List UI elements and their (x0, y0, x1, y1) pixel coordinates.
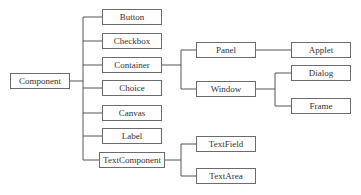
node-applet: Applet (291, 42, 351, 58)
node-choice: Choice (102, 80, 162, 96)
node-textarea: TextArea (196, 168, 256, 184)
node-label: Label (102, 128, 162, 144)
node-container: Container (102, 57, 162, 73)
class-hierarchy-diagram: Component Button Checkbox Container Choi… (0, 0, 361, 195)
node-panel: Panel (196, 42, 256, 58)
node-textcomponent: TextComponent (99, 152, 165, 168)
node-component: Component (10, 73, 70, 89)
node-window: Window (196, 81, 256, 97)
node-checkbox: Checkbox (102, 33, 162, 49)
node-canvas: Canvas (102, 105, 162, 121)
node-textfield: TextField (196, 136, 256, 152)
node-button: Button (102, 9, 162, 25)
node-frame: Frame (291, 98, 351, 114)
node-dialog: Dialog (291, 65, 351, 81)
